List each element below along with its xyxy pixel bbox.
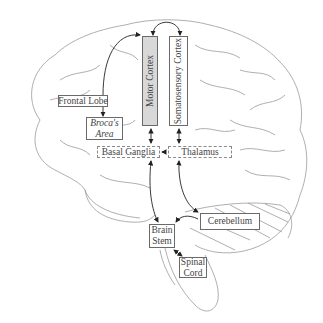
frontal-lobe-text: Frontal Lobe: [58, 96, 107, 107]
brocas-area-text-line1: Broca's: [90, 118, 119, 129]
cerebellum-label: Cerebellum: [200, 213, 260, 230]
motor-cortex-text: Motor Cortex: [145, 55, 156, 107]
somatosensory-cortex-label: Somatosensory Cortex: [169, 36, 188, 126]
cerebellum-text: Cerebellum: [208, 216, 252, 227]
brocas-area-label: Broca's Area: [86, 117, 123, 140]
spinal-cord-text-line2: Cord: [184, 268, 203, 279]
motor-cortex-label: Motor Cortex: [142, 36, 158, 126]
brain-stem-label: Brain Stem: [149, 224, 175, 248]
somatosensory-cortex-text: Somatosensory Cortex: [173, 38, 184, 124]
basal-ganglia-text: Basal Ganglia: [102, 147, 156, 158]
brain-diagram: Frontal Lobe Broca's Area Motor Cortex S…: [0, 0, 323, 323]
brain-stem-text-line1: Brain: [151, 225, 172, 236]
basal-ganglia-label: Basal Ganglia: [97, 146, 160, 158]
brain-stem-text-line2: Stem: [152, 236, 172, 247]
brain-outline-illustration: [0, 0, 323, 323]
brocas-area-text-line2: Area: [95, 129, 113, 140]
spinal-cord-label: Spinal Cord: [179, 257, 207, 278]
spinal-cord-text-line1: Spinal: [181, 257, 205, 268]
frontal-lobe-label: Frontal Lobe: [58, 95, 108, 107]
thalamus-label: Thalamus: [168, 146, 232, 158]
thalamus-text: Thalamus: [181, 147, 218, 158]
